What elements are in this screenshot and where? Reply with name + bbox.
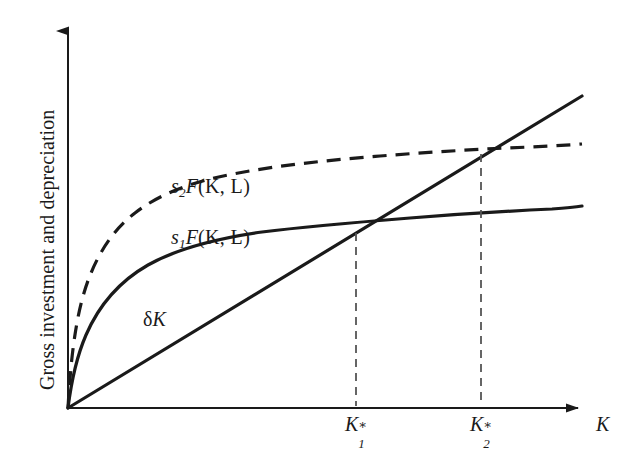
curve-label-s2F-prefix: s: [171, 175, 179, 197]
curve-label-s2F-subscript: 2: [179, 185, 186, 200]
y-axis-label: Gross investment and depreciation: [34, 0, 60, 390]
x-tick-label-k2: K∗2: [470, 414, 483, 434]
x-axis-label: K: [596, 414, 609, 434]
x-tick-label-k2-base: K: [470, 413, 483, 435]
curve-label-s1F-args: (K, L): [198, 226, 250, 248]
curve-label-deltaK: δK: [143, 309, 166, 329]
curve-label-s2F: s2F(K, L): [171, 176, 250, 199]
curve-s1F: [68, 206, 582, 408]
curve-s2F: [68, 144, 582, 408]
x-tick-label-k2-subscript: 2: [483, 437, 490, 450]
x-tick-label-k2-superscript: ∗: [483, 418, 492, 431]
line-depreciation-deltaK: [68, 96, 582, 408]
x-tick-label-k1: K∗1: [345, 414, 358, 434]
x-tick-label-k1-superscript: ∗: [358, 418, 367, 431]
x-tick-label-k1-subscript: 1: [358, 437, 365, 450]
curve-label-s1F-subscript: 1: [179, 236, 186, 251]
solow-model-plot: [0, 0, 632, 469]
curve-label-s2F-main: F: [186, 175, 198, 197]
x-tick-label-k1-base: K: [345, 413, 358, 435]
curve-label-s1F-prefix: s: [171, 226, 179, 248]
curve-label-s1F-main: F: [186, 226, 198, 248]
curve-label-s2F-args: (K, L): [198, 175, 250, 197]
curve-label-deltaK-main: K: [152, 308, 165, 330]
figure-container: Gross investment and depreciation s2F(K,…: [0, 0, 632, 469]
curve-label-s1F: s1F(K, L): [171, 227, 250, 250]
